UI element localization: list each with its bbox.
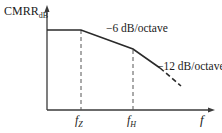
tick-label-fz: fZ — [75, 114, 83, 129]
slope-annotation-2: −12 dB/octave — [157, 61, 222, 73]
cmrr-response-curve — [47, 30, 160, 68]
slope-annotation-1: −6 dB/octave — [106, 23, 168, 35]
x-axis-arrow-icon — [208, 108, 215, 113]
tick-label-fh: fH — [127, 114, 136, 129]
y-axis-label: CMRRdB — [4, 5, 48, 20]
x-axis-label: f — [200, 113, 204, 126]
